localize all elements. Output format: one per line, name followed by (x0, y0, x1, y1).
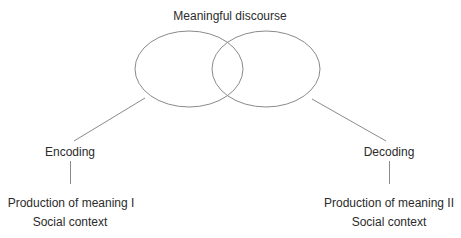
diagram-title: Meaningful discourse (173, 9, 286, 23)
production-of-meaning-2-label: Production of meaning II (324, 196, 454, 210)
left-social-context-label: Social context (33, 215, 108, 229)
encoding-label: Encoding (45, 145, 95, 159)
right-connector-line (312, 99, 386, 141)
production-of-meaning-1-label: Production of meaning I (8, 196, 135, 210)
left-connector-line (74, 98, 145, 141)
right-ellipse-decoding-circle (212, 31, 320, 107)
decoding-label: Decoding (364, 145, 415, 159)
right-social-context-label: Social context (352, 215, 427, 229)
